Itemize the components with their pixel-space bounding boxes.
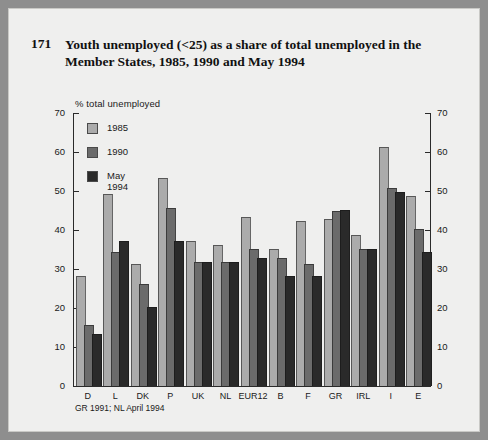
- y-axis-tick-label: 50: [437, 186, 463, 196]
- page-title: Youth unemployed (<25) as a share of tot…: [65, 36, 461, 70]
- y-axis-tick-label: 20: [437, 303, 463, 313]
- bar: [285, 276, 295, 386]
- legend-label: 1985: [107, 122, 128, 133]
- y-axis-tick-label: 40: [39, 225, 65, 235]
- bar: [257, 258, 267, 386]
- bar-group: [269, 113, 293, 386]
- bar-group: [186, 113, 210, 386]
- y-axis-tick-label: 70: [437, 108, 463, 118]
- bar: [312, 276, 322, 386]
- bar-group: [241, 113, 265, 386]
- y-axis-tick-label: 60: [437, 147, 463, 157]
- legend-swatch-icon: [87, 123, 98, 134]
- bar-group: [379, 113, 403, 386]
- x-axis-tick-label: E: [396, 391, 440, 401]
- chart-page: 171 Youth unemployed (<25) as a share of…: [9, 9, 479, 431]
- bar: [367, 249, 377, 387]
- bar-group: [296, 113, 320, 386]
- x-axis-line: [73, 386, 431, 387]
- bar: [174, 241, 184, 386]
- legend-label: May 1994: [107, 170, 128, 192]
- legend-label: 1990: [107, 146, 128, 157]
- bar: [119, 241, 129, 386]
- y-axis-tick-label: 50: [39, 186, 65, 196]
- y-axis-tick-label: 60: [39, 147, 65, 157]
- bar-group: [351, 113, 375, 386]
- bar: [422, 252, 432, 386]
- bar: [340, 210, 350, 387]
- axis-tick: [425, 386, 430, 387]
- legend-swatch-icon: [87, 147, 98, 158]
- bar: [147, 307, 157, 386]
- y-axis-tick-label: 30: [39, 264, 65, 274]
- bar-group: [324, 113, 348, 386]
- y-axis-tick-label: 0: [437, 381, 463, 391]
- legend-swatch-icon: [87, 171, 98, 182]
- chart-footnote: GR 1991; NL April 1994: [75, 403, 164, 413]
- y-axis-tick-label: 20: [39, 303, 65, 313]
- bar: [202, 262, 212, 386]
- bar-group: [158, 113, 182, 386]
- y-axis-tick-label: 10: [437, 342, 463, 352]
- y-axis-tick-label: 30: [437, 264, 463, 274]
- figure-number: 171: [31, 36, 65, 52]
- bar: [395, 192, 405, 386]
- y-axis-tick-label: 10: [39, 342, 65, 352]
- bar-group: [406, 113, 430, 386]
- y-axis-tick-label: 70: [39, 108, 65, 118]
- y-axis-tick-label: 40: [437, 225, 463, 235]
- bar: [92, 334, 102, 386]
- bar-group: [213, 113, 237, 386]
- bar: [229, 262, 239, 386]
- y-axis-tick-label: 0: [39, 381, 65, 391]
- axis-tick: [74, 386, 79, 387]
- y-axis-unit-label: % total unemployed: [75, 98, 160, 109]
- bar-group: [131, 113, 155, 386]
